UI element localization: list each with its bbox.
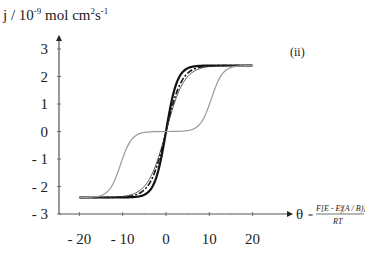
svg-text:=: = [308, 210, 313, 220]
y-ticks: 3210- 1- 2- 3 [32, 41, 61, 222]
x-tick-label: 10 [202, 231, 217, 247]
svg-text:θ: θ [296, 206, 303, 222]
panel-label: (ii) [290, 45, 305, 59]
series-line [79, 66, 252, 198]
x-tick-label: - 20 [68, 231, 92, 247]
x-tick-label: - 10 [111, 231, 135, 247]
x-ticks: - 20- 1001020 [68, 212, 275, 247]
y-tick-label: - 1 [32, 151, 48, 167]
y-axis-label: j / 10-9 mol cm2s-1 [2, 6, 108, 23]
x-tick-label: 20 [245, 231, 260, 247]
y-tick-label: - 3 [32, 206, 48, 222]
chart: j / 10-9 mol cm2s-1 3210- 1- 2- 3 - 20- … [0, 0, 365, 257]
y-tick-label: - 2 [32, 179, 48, 195]
y-tick-label: 2 [41, 69, 49, 85]
svg-text:F[E - Eof(A / B)]: F[E - Eof(A / B)] [315, 203, 365, 214]
x-axis-label: θ = F[E - Eof(A / B)] RT [296, 203, 365, 226]
curves [79, 66, 252, 198]
svg-text:RT: RT [332, 217, 343, 226]
y-tick-label: 0 [41, 124, 49, 140]
y-tick-label: 3 [41, 41, 49, 57]
x-tick-label: 0 [162, 231, 170, 247]
y-tick-label: 1 [41, 96, 49, 112]
